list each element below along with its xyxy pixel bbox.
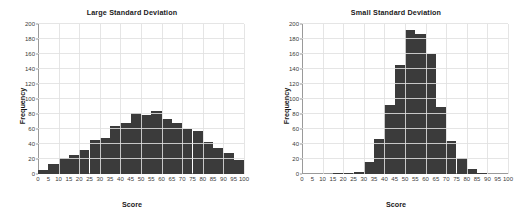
histogram-bar — [48, 164, 58, 175]
x-tick-label: 30 — [96, 174, 103, 182]
y-tick-mark — [36, 84, 38, 85]
x-tick-label: 5 — [47, 174, 50, 182]
x-tick-label: 60 — [158, 174, 165, 182]
x-tick-label: 75 — [189, 174, 196, 182]
y-tick-mark — [36, 24, 38, 25]
y-tick-mark — [300, 129, 302, 130]
y-tick-mark — [36, 114, 38, 115]
bar-series-small-sd — [302, 24, 508, 174]
x-tick-label: 95 — [230, 174, 237, 182]
x-tick-label: 65 — [433, 174, 440, 182]
x-tick-label: 100 — [503, 174, 513, 182]
histogram-bar — [172, 123, 182, 174]
x-tick-label: 75 — [453, 174, 460, 182]
histogram-bar — [395, 65, 405, 175]
chart-title-small-sd: Small Standard Deviation — [264, 8, 528, 17]
x-tick-label: 85 — [210, 174, 217, 182]
histogram-bar — [426, 54, 436, 174]
x-tick-label: 35 — [107, 174, 114, 182]
histogram-bar — [90, 140, 100, 174]
histogram-bar — [405, 30, 415, 174]
x-tick-label: 35 — [371, 174, 378, 182]
y-tick-mark — [36, 129, 38, 130]
x-tick-label: 95 — [494, 174, 501, 182]
chart-title-large-sd: Large Standard Deviation — [0, 8, 264, 17]
x-tick-label: 15 — [330, 174, 337, 182]
histogram-bar — [100, 138, 110, 174]
x-axis-label-small-sd: Score — [264, 200, 528, 209]
histogram-bar — [223, 153, 233, 174]
x-tick-label: 10 — [319, 174, 326, 182]
histogram-bar — [446, 141, 456, 174]
histogram-bar — [131, 113, 141, 174]
gridline-vertical — [508, 24, 509, 174]
gridline-vertical — [244, 24, 245, 174]
y-tick-mark — [300, 114, 302, 115]
histogram-bar — [234, 160, 244, 174]
histogram-bar — [141, 115, 151, 174]
x-tick-label: 0 — [36, 174, 39, 182]
x-tick-label: 85 — [474, 174, 481, 182]
histogram-bar — [110, 126, 120, 174]
plot-area-small-sd: 020406080100120140160180200 051015202530… — [302, 24, 508, 174]
y-tick-mark — [300, 144, 302, 145]
y-tick-mark — [36, 159, 38, 160]
x-tick-label: 80 — [463, 174, 470, 182]
x-tick-label: 45 — [391, 174, 398, 182]
x-tick-label: 70 — [179, 174, 186, 182]
x-tick-label: 60 — [422, 174, 429, 182]
histogram-bar — [374, 139, 384, 174]
plot-canvas-large-sd — [38, 24, 244, 174]
histogram-bar — [79, 150, 89, 174]
bar-series-large-sd — [38, 24, 244, 174]
panel-small-sd: Small Standard Deviation Frequency 02040… — [264, 0, 528, 211]
y-tick-mark — [36, 54, 38, 55]
y-tick-mark — [36, 99, 38, 100]
histogram-bar — [415, 34, 425, 174]
x-tick-label: 30 — [360, 174, 367, 182]
histogram-bar — [69, 155, 79, 175]
plot-canvas-small-sd — [302, 24, 508, 174]
histogram-bar — [182, 129, 192, 174]
y-axis-label-large-sd: Frequency — [18, 87, 27, 123]
x-tick-label: 70 — [443, 174, 450, 182]
x-tick-label: 45 — [127, 174, 134, 182]
y-tick-mark — [300, 69, 302, 70]
x-tick-label: 55 — [148, 174, 155, 182]
x-tick-label: 100 — [239, 174, 249, 182]
x-tick-label: 50 — [402, 174, 409, 182]
x-tick-label: 65 — [169, 174, 176, 182]
x-tick-label: 50 — [138, 174, 145, 182]
x-tick-label: 20 — [76, 174, 83, 182]
y-tick-mark — [36, 144, 38, 145]
x-tick-label: 15 — [66, 174, 73, 182]
histogram-bar — [436, 107, 446, 175]
x-tick-label: 40 — [117, 174, 124, 182]
histogram-figure: Large Standard Deviation Frequency 02040… — [0, 0, 528, 211]
y-tick-mark — [300, 84, 302, 85]
x-tick-label: 80 — [199, 174, 206, 182]
x-tick-label: 20 — [340, 174, 347, 182]
histogram-bar — [213, 148, 223, 174]
histogram-bar — [59, 158, 69, 175]
y-tick-mark — [36, 39, 38, 40]
histogram-bar — [151, 111, 161, 174]
y-tick-mark — [300, 54, 302, 55]
histogram-bar — [364, 162, 374, 174]
x-tick-label: 0 — [300, 174, 303, 182]
y-tick-mark — [300, 39, 302, 40]
histogram-bar — [193, 131, 203, 174]
y-tick-mark — [300, 24, 302, 25]
histogram-bar — [457, 158, 467, 174]
x-tick-label: 25 — [350, 174, 357, 182]
y-tick-mark — [36, 69, 38, 70]
plot-area-large-sd: 020406080100120140160180200 051015202530… — [38, 24, 244, 174]
x-tick-label: 90 — [220, 174, 227, 182]
y-tick-mark — [300, 159, 302, 160]
histogram-bar — [203, 142, 213, 174]
x-tick-label: 55 — [412, 174, 419, 182]
x-tick-label: 90 — [484, 174, 491, 182]
y-axis-label-small-sd: Frequency — [282, 87, 291, 123]
panel-large-sd: Large Standard Deviation Frequency 02040… — [0, 0, 264, 211]
x-tick-label: 25 — [86, 174, 93, 182]
